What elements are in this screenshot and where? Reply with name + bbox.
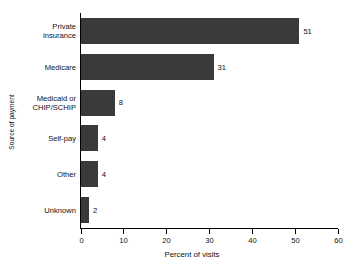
x-axis-tick-label: 60 bbox=[334, 236, 342, 245]
category-label: Self-pay bbox=[48, 134, 76, 143]
bar-value-label: 4 bbox=[102, 170, 106, 179]
x-axis-tick-label: 10 bbox=[119, 236, 127, 245]
bar-value-label: 4 bbox=[102, 134, 106, 143]
bar bbox=[81, 90, 115, 116]
bar-value-label: 31 bbox=[218, 63, 226, 72]
category-label: Other bbox=[57, 170, 76, 179]
bar bbox=[81, 18, 300, 44]
x-axis-title: Percent of visits bbox=[164, 250, 219, 259]
category-label: Medicaid orCHIP/SCHIP bbox=[33, 94, 77, 112]
bar-value-label: 51 bbox=[303, 27, 311, 36]
category-label: Unknown bbox=[44, 206, 76, 215]
bar-chart-figure: 0102030405060 51318442 PrivateinsuranceM… bbox=[0, 0, 355, 267]
x-axis-tick-label: 40 bbox=[248, 236, 256, 245]
x-axis-tick-label: 20 bbox=[162, 236, 170, 245]
category-label: Medicare bbox=[45, 63, 76, 72]
bar-value-label: 8 bbox=[119, 98, 123, 107]
x-axis-tick-label: 30 bbox=[205, 236, 213, 245]
x-axis-tick-label: 50 bbox=[291, 236, 299, 245]
y-axis-title: Source of payment bbox=[8, 94, 16, 150]
bar bbox=[81, 197, 90, 223]
bar bbox=[81, 125, 98, 151]
chart-canvas: 0102030405060 51318442 PrivateinsuranceM… bbox=[0, 0, 355, 267]
bar bbox=[81, 161, 98, 187]
bar bbox=[81, 54, 214, 80]
x-axis-tick-label: 0 bbox=[79, 236, 83, 245]
bar-value-label: 2 bbox=[93, 206, 97, 215]
